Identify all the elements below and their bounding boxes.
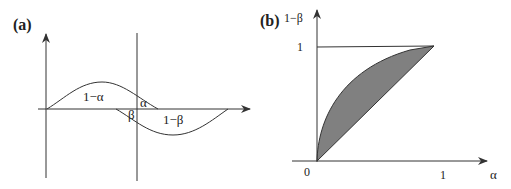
origin-label: 0 [304,165,310,179]
x-axis-label: α [490,167,497,182]
panel-a: (a) 1−α α β 1−β [13,16,250,181]
region-beta: β [128,107,135,122]
roc-shaded-area [317,46,434,161]
x-tick-one: 1 [440,168,446,182]
panel-b-label: (b) [260,12,280,30]
top-reference-line [317,46,434,47]
y-axis-label: 1−β [284,11,303,25]
panel-b: (b) 1−β 1 0 1 α [260,10,497,182]
panel-a-label: (a) [13,16,32,34]
region-one-minus-alpha: 1−α [83,89,104,104]
diagram-canvas: (a) 1−α α β 1−β (b) 1−β 1 0 1 α [0,0,511,189]
y-tick-one: 1 [297,40,303,54]
region-alpha: α [140,95,147,110]
region-one-minus-beta: 1−β [163,112,184,127]
